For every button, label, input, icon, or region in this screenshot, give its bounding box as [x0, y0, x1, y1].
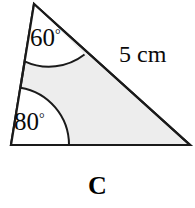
figure-caption: C	[0, 173, 195, 199]
angle-label-60: 60°	[30, 25, 61, 50]
angle-value-60: 60	[30, 24, 55, 51]
degree-symbol-80: °	[39, 111, 45, 126]
angle-label-80: 80°	[14, 109, 45, 134]
geometry-figure: 60° 80° 5 cm C	[0, 0, 195, 208]
side-length-label: 5 cm	[119, 42, 166, 66]
degree-symbol-60: °	[55, 27, 61, 42]
angle-value-80: 80	[14, 108, 39, 135]
